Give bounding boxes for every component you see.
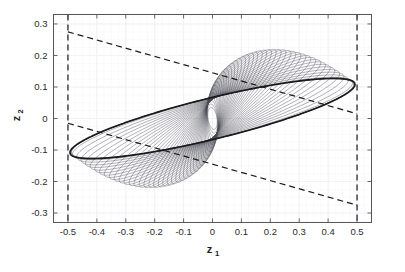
x-tick-label: -0.4 (89, 226, 105, 237)
x-tick-label: 0.2 (264, 226, 277, 237)
y-axis-label-subscript: 2 (16, 109, 25, 113)
y-tick-label: 0.2 (34, 50, 47, 61)
y-tick-label: -0.3 (31, 207, 47, 218)
x-tick-label: 0.3 (293, 226, 306, 237)
x-tick-label: -0.1 (175, 226, 191, 237)
y-tick-label: 0.1 (34, 81, 47, 92)
x-tick-label: 0.4 (322, 226, 335, 237)
y-axis-label: z (10, 115, 22, 121)
x-tick-label: -0.5 (60, 226, 76, 237)
x-tick-label: 0.5 (350, 226, 363, 237)
y-tick-label: 0 (42, 113, 47, 124)
x-tick-label: 0 (210, 226, 215, 237)
x-tick-label: -0.3 (118, 226, 134, 237)
phase-portrait-chart: -0.5-0.4-0.3-0.2-0.100.10.20.30.40.50.30… (0, 0, 405, 272)
x-axis-label-subscript: 1 (215, 249, 219, 258)
y-tick-label: -0.1 (31, 144, 47, 155)
x-tick-label: -0.2 (146, 226, 162, 237)
y-tick-label: -0.2 (31, 176, 47, 187)
x-axis-label: z (207, 243, 213, 255)
y-tick-label: 0.3 (34, 18, 47, 29)
x-tick-label: 0.1 (235, 226, 248, 237)
figure-container: -0.5-0.4-0.3-0.2-0.100.10.20.30.40.50.30… (0, 0, 405, 272)
